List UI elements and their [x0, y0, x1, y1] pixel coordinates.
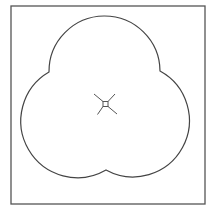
center-marker-icon	[94, 94, 117, 115]
trefoil-outline	[21, 16, 190, 178]
trefoil-diagram	[0, 0, 208, 209]
